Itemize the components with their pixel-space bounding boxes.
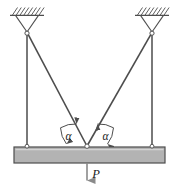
pin-joint-icon-beam-left xyxy=(25,144,29,148)
ceiling-support-left xyxy=(10,8,44,36)
angle-label-right: α xyxy=(102,130,109,142)
truss-diagram-figure: α α P xyxy=(0,0,174,193)
ceiling-support-right xyxy=(135,8,169,36)
pin-joint-icon-left xyxy=(25,31,29,35)
hatched-ceiling-icon-left xyxy=(10,8,44,16)
support-bracket-right xyxy=(141,15,164,32)
angle-label-left: α xyxy=(65,130,72,142)
diagonal-bar-right xyxy=(88,35,151,145)
diagonal-bar-left xyxy=(28,35,86,145)
figure-canvas: α α P xyxy=(0,0,174,193)
load-label: P xyxy=(91,167,100,181)
pin-joint-icon-right xyxy=(150,31,154,35)
pin-joint-icon-beam-center xyxy=(85,144,89,148)
hatched-ceiling-icon-right xyxy=(135,8,169,16)
pin-joint-icon-beam-right xyxy=(150,144,154,148)
support-bracket-left xyxy=(16,15,39,32)
